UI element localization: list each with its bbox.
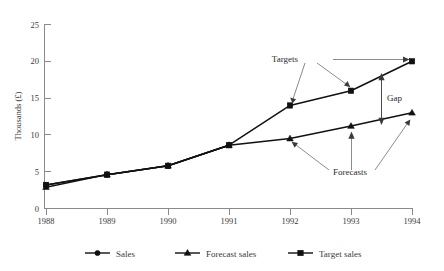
x-tick-label-1991: 1991: [221, 216, 238, 226]
targets-leader-1993: [317, 63, 346, 84]
gap-arrowhead-down: [378, 118, 384, 125]
data-point-circle-marker-icon: [104, 172, 109, 177]
y-tick-label-20: 20: [31, 56, 40, 66]
legend-marker-square-icon: [298, 250, 303, 255]
targets-label: Targets: [272, 54, 299, 64]
legend-item-target-sales[interactable]: Target sales: [288, 249, 362, 259]
x-tick-label-1993: 1993: [343, 216, 360, 226]
targets-arrowhead-1994: [403, 57, 410, 63]
y-tick-label-10: 10: [31, 130, 40, 140]
forecasts-arrowhead-1993: [348, 132, 354, 139]
gap-analysis-chart: 25 20 15 10 5 0 Thousands (£) 1988 1989 …: [0, 0, 444, 271]
data-point-square-marker-icon: [409, 59, 414, 64]
forecasts-leader-1994: [375, 124, 407, 170]
legend-label-forecast-sales: Forecast sales: [206, 249, 257, 259]
x-tick-label-1988: 1988: [38, 216, 55, 226]
data-point-triangle-marker-icon: [409, 109, 416, 115]
data-point-circle-marker-icon: [165, 163, 170, 168]
chart-canvas: 25 20 15 10 5 0 Thousands (£) 1988 1989 …: [0, 0, 444, 271]
legend: Sales Forecast sales Target sales: [85, 249, 362, 259]
series-markers-forecast-sales: [43, 109, 416, 189]
legend-label-target-sales: Target sales: [319, 249, 362, 259]
y-tick-label-15: 15: [31, 93, 40, 103]
legend-item-sales[interactable]: Sales: [85, 249, 135, 259]
y-tick-label-5: 5: [35, 167, 39, 177]
forecasts-leader-1992: [296, 145, 329, 170]
x-tick-label-1990: 1990: [160, 216, 177, 226]
x-tick-label-1989: 1989: [99, 216, 116, 226]
y-axis-title: Thousands (£): [13, 91, 23, 140]
targets-leader-1992: [293, 63, 305, 99]
x-tick-label-1994: 1994: [404, 216, 422, 226]
series-line-sales: [46, 145, 229, 185]
forecasts-label: Forecasts: [333, 167, 367, 177]
targets-arrowhead-1993: [344, 81, 350, 87]
data-point-circle-marker-icon: [226, 143, 231, 148]
gap-label: Gap: [387, 93, 402, 103]
forecasts-arrowhead-1992: [292, 142, 298, 148]
data-point-square-marker-icon: [287, 103, 292, 108]
y-tick-label-0: 0: [35, 204, 39, 214]
forecasts-arrowhead-1994: [405, 120, 411, 127]
legend-item-forecast-sales[interactable]: Forecast sales: [175, 249, 257, 259]
x-tick-label-1992: 1992: [282, 216, 299, 226]
y-tick-label-25: 25: [31, 20, 40, 30]
data-point-square-marker-icon: [348, 88, 353, 93]
legend-label-sales: Sales: [116, 249, 135, 259]
data-point-circle-marker-icon: [43, 182, 48, 187]
legend-marker-circle-icon: [95, 250, 100, 255]
